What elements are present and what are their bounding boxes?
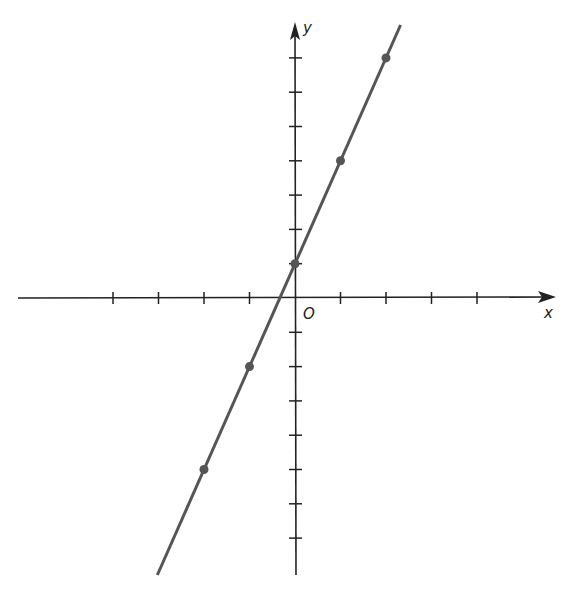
- data-point: [291, 259, 300, 268]
- y-axis-label-text: y: [302, 19, 313, 37]
- x-axis-label-text: x: [543, 304, 553, 322]
- data-point: [200, 465, 209, 474]
- y-axis: [295, 30, 296, 575]
- data-point: [245, 362, 254, 371]
- plotted-line: [157, 25, 400, 575]
- data-point: [382, 53, 391, 62]
- x-axis: [18, 297, 548, 298]
- data-point: [336, 156, 345, 165]
- line-graph: xyO: [0, 0, 573, 590]
- origin-label-text: O: [303, 305, 315, 323]
